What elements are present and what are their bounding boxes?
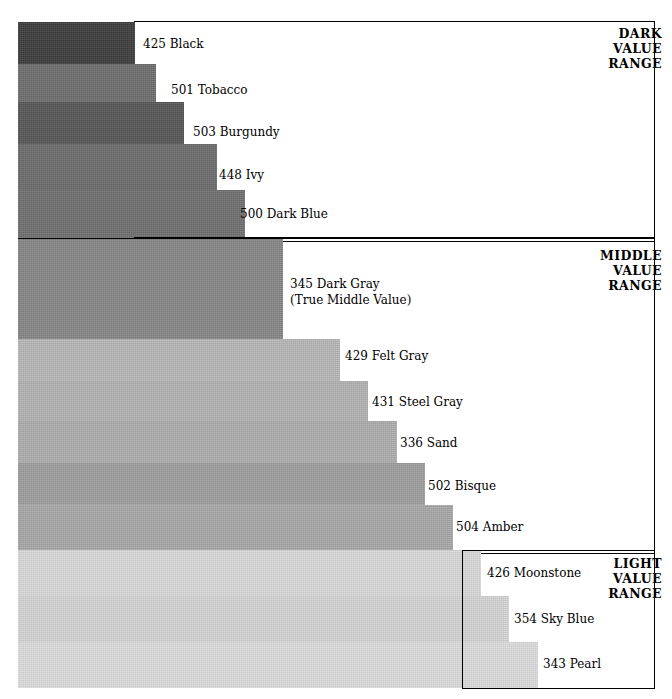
swatch-bar-354-sky-blue xyxy=(18,596,509,642)
swatch-label-345-dark-gray: 345 Dark Gray (True Middle Value) xyxy=(290,276,411,308)
swatch-label-343-pearl: 343 Pearl xyxy=(543,656,601,672)
light-value-range-heading: LIGHT VALUE RANGE xyxy=(608,556,662,601)
swatch-label-504-amber: 504 Amber xyxy=(456,519,523,535)
swatch-label-336-sand: 336 Sand xyxy=(400,435,458,451)
swatch-bar-343-pearl xyxy=(18,642,538,688)
value-range-chart: DARK VALUE RANGE MIDDLE VALUE RANGE LIGH… xyxy=(0,0,672,699)
swatch-label-425-black: 425 Black xyxy=(143,36,204,52)
light-range-top-rule xyxy=(481,553,655,554)
swatch-label-448-ivy: 448 Ivy xyxy=(219,167,264,183)
swatch-label-500-dark-blue: 500 Dark Blue xyxy=(240,206,328,222)
swatch-bar-425-black xyxy=(18,22,135,64)
swatch-label-429-felt-gray: 429 Felt Gray xyxy=(345,348,428,364)
swatch-label-426-moonstone: 426 Moonstone xyxy=(487,565,581,581)
dark-value-range-heading: DARK VALUE RANGE xyxy=(608,26,662,71)
swatch-label-354-sky-blue: 354 Sky Blue xyxy=(514,611,594,627)
swatch-bar-426-moonstone xyxy=(18,550,481,596)
middle-value-range-heading: MIDDLE VALUE RANGE xyxy=(600,248,662,293)
swatch-label-501-tobacco: 501 Tobacco xyxy=(171,82,248,98)
swatch-label-431-steel-gray: 431 Steel Gray xyxy=(372,394,463,410)
swatch-label-503-burgundy: 503 Burgundy xyxy=(193,124,280,140)
middle-range-top-rule xyxy=(283,241,655,242)
swatch-label-502-bisque: 502 Bisque xyxy=(428,478,496,494)
